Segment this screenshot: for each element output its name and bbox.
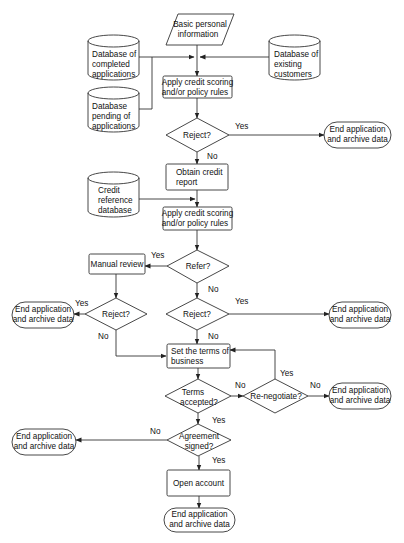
svg-text:existing: existing — [274, 60, 302, 69]
label-accepted-no: No — [235, 381, 246, 390]
svg-text:End application: End application — [16, 432, 72, 441]
node-end-application-3: End application and archive data — [329, 383, 391, 409]
svg-text:applications: applications — [92, 122, 135, 131]
svg-text:pending of: pending of — [92, 112, 131, 121]
svg-text:and archive data: and archive data — [13, 315, 74, 324]
node-database-pending-applications: Database pending of applications — [88, 87, 139, 132]
svg-text:End application: End application — [330, 125, 386, 134]
node-reject-decision-2: Reject? — [166, 298, 229, 330]
node-manual-review: Manual review — [89, 254, 145, 274]
node-reject-decision-1: Reject? — [166, 118, 229, 152]
node-terms-accepted-decision: Terms accepted? — [165, 379, 231, 413]
svg-text:Refer?: Refer? — [186, 262, 211, 271]
svg-text:completed: completed — [92, 60, 130, 69]
svg-text:Manual review: Manual review — [91, 260, 144, 269]
svg-text:database: database — [98, 206, 132, 215]
node-reject-decision-manual: Reject? — [85, 298, 147, 330]
label-renegotiate-no: No — [310, 381, 321, 390]
label-reject2-yes: Yes — [235, 297, 248, 306]
label-refer-no: No — [208, 285, 219, 294]
svg-text:and/or policy rules: and/or policy rules — [162, 219, 228, 228]
svg-text:applications: applications — [92, 70, 135, 79]
label-reject-left-no: No — [98, 332, 109, 341]
node-database-completed-applications: Database of completed applications — [88, 35, 139, 80]
svg-text:Reject?: Reject? — [102, 310, 130, 319]
node-end-application-left: End application and archive data — [12, 302, 74, 328]
svg-text:Database: Database — [92, 102, 127, 111]
svg-text:reference: reference — [98, 196, 133, 205]
edge-db-pending — [139, 57, 152, 109]
edge-reject-left-no — [116, 330, 166, 356]
svg-text:Database of: Database of — [274, 50, 319, 59]
svg-text:End application: End application — [15, 305, 71, 314]
node-refer-decision: Refer? — [167, 250, 229, 283]
label-reject2-no: No — [208, 332, 219, 341]
svg-text:customers: customers — [274, 70, 312, 79]
svg-text:Apply credit scoring: Apply credit scoring — [162, 209, 234, 218]
svg-text:and archive data: and archive data — [14, 442, 75, 451]
svg-text:and/or policy rules: and/or policy rules — [162, 88, 228, 97]
label-reject-left-yes: Yes — [75, 299, 88, 308]
svg-text:and archive data: and archive data — [330, 396, 391, 405]
svg-text:Set the terms of: Set the terms of — [171, 347, 230, 356]
svg-text:Re-negotiate?: Re-negotiate? — [250, 392, 302, 401]
node-end-application-2: End application and archive data — [329, 302, 391, 328]
label-reject1-no: No — [207, 152, 218, 161]
node-apply-credit-scoring-1: Apply credit scoring and/or policy rules — [162, 76, 234, 98]
label-signed-no: No — [150, 427, 161, 436]
svg-text:information: information — [178, 30, 219, 39]
node-credit-reference-database: Credit reference database — [88, 172, 139, 217]
node-open-account: Open account — [167, 470, 230, 496]
svg-text:End application: End application — [332, 386, 388, 395]
credit-application-flowchart: Basic personal information Database of c… — [0, 0, 404, 543]
svg-text:accepted?: accepted? — [180, 398, 218, 407]
node-end-application-1: End application and archive data — [324, 122, 391, 148]
node-end-application-final: End application and archive data — [164, 508, 235, 532]
svg-text:and archive data: and archive data — [169, 520, 230, 529]
svg-text:End application: End application — [172, 510, 228, 519]
node-set-terms-of-business: Set the terms of business — [167, 344, 230, 368]
label-refer-yes: Yes — [151, 251, 164, 260]
svg-text:report: report — [176, 178, 198, 187]
svg-text:and archive data: and archive data — [330, 315, 391, 324]
node-renegotiate-decision: Re-negotiate? — [243, 379, 308, 413]
label-signed-yes: Yes — [212, 456, 225, 465]
svg-text:Basic personal: Basic personal — [173, 20, 227, 29]
edge-renegotiate-yes — [230, 350, 275, 379]
node-obtain-credit-report: Obtain credit report — [166, 164, 228, 190]
svg-text:signed?: signed? — [185, 442, 214, 451]
svg-text:Open account: Open account — [173, 479, 225, 488]
label-reject1-yes: Yes — [235, 122, 248, 131]
svg-text:business: business — [171, 357, 203, 366]
node-database-existing-customers: Database of existing customers — [269, 35, 320, 80]
svg-text:Terms: Terms — [182, 388, 204, 397]
label-renegotiate-yes: Yes — [280, 369, 293, 378]
svg-text:Database of: Database of — [92, 50, 137, 59]
node-end-application-4: End application and archive data — [12, 429, 76, 455]
svg-text:Credit: Credit — [98, 186, 121, 195]
node-apply-credit-scoring-2: Apply credit scoring and/or policy rules — [162, 207, 234, 230]
svg-text:Obtain credit: Obtain credit — [176, 168, 223, 177]
svg-text:Agreement: Agreement — [179, 432, 220, 441]
node-agreement-signed-decision: Agreement signed? — [167, 424, 231, 456]
svg-text:Reject?: Reject? — [183, 310, 211, 319]
svg-text:End application: End application — [332, 305, 388, 314]
svg-text:Reject?: Reject? — [183, 131, 211, 140]
svg-text:Apply credit scoring: Apply credit scoring — [162, 78, 234, 87]
svg-text:and archive data: and archive data — [327, 135, 388, 144]
node-basic-personal-information: Basic personal information — [166, 14, 234, 45]
label-accepted-yes: Yes — [212, 416, 225, 425]
